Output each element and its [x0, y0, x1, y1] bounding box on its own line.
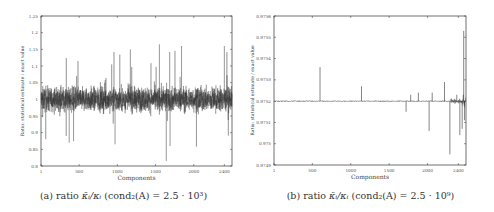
y-tick-label: 1.15	[29, 47, 39, 52]
y-tick-label: 0.9751	[256, 120, 271, 125]
y-tick-label: 0.9755	[256, 35, 271, 40]
caption-b-label: (b)	[287, 190, 301, 201]
chart-panel-b: 0.97490.9750.97510.97520.97530.97540.975…	[247, 0, 494, 212]
y-tick-label: 0.8	[31, 164, 38, 169]
chart-a-plot: 0.80.850.90.9511.051.11.151.21.251500100…	[0, 0, 247, 190]
x-axis-title: Components	[351, 173, 389, 181]
y-tick-label: 0.85	[29, 147, 39, 152]
x-tick-label: 500	[75, 169, 83, 174]
caption-b-math: κ̄ᵢ/κᵢ	[329, 190, 348, 201]
caption-a-text: ratio	[56, 190, 79, 201]
x-tick-label: 2400	[453, 168, 464, 173]
chart-b-plot: 0.97490.9750.97510.97520.97530.97540.975…	[247, 0, 494, 190]
x-tick-label: 1	[40, 169, 43, 174]
x-tick-label: 2000	[188, 169, 199, 174]
x-tick-label: 1	[273, 168, 276, 173]
x-tick-label: 500	[308, 168, 316, 173]
caption-a-cond: (cond₂(A) = 2.5 · 10³)	[104, 190, 207, 201]
x-tick-label: 2400	[219, 169, 230, 174]
plot-area	[41, 44, 232, 161]
y-axis-title: Ratio: statistical estimate / exact valu…	[20, 45, 25, 136]
y-tick-label: 0.9754	[256, 56, 271, 61]
y-tick-label: 1.25	[29, 14, 39, 19]
x-axis-title: Components	[117, 174, 155, 182]
caption-a-label: (a)	[40, 190, 53, 201]
caption-a: (a) ratio κ̄ᵢ/κᵢ (cond₂(A) = 2.5 · 10³)	[0, 190, 247, 201]
data-line	[41, 51, 232, 147]
caption-b: (b) ratio κ̄ᵢ/κᵢ (cond₂(A) = 2.5 · 10⁹)	[247, 190, 494, 201]
y-tick-label: 0.9749	[256, 163, 271, 168]
y-axis-title: Ratio: statistical estimate / exact valu…	[250, 45, 255, 136]
y-tick-label: 0.9756	[256, 14, 271, 19]
data-line	[274, 101, 466, 102]
plot-frame	[274, 16, 466, 165]
y-tick-label: 0.9	[31, 130, 38, 135]
caption-a-math: κ̄ᵢ/κᵢ	[82, 190, 101, 201]
y-tick-label: 1	[35, 97, 38, 102]
y-tick-label: 0.9753	[256, 77, 271, 82]
y-tick-label: 1.1	[31, 64, 38, 69]
y-tick-label: 0.95	[29, 114, 39, 119]
caption-b-cond: (cond₂(A) = 2.5 · 10⁹)	[352, 190, 455, 201]
y-tick-label: 1.2	[31, 30, 38, 35]
y-tick-label: 1.05	[29, 80, 39, 85]
plot-area	[274, 31, 466, 154]
chart-panel-a: 0.80.850.90.9511.051.11.151.21.251500100…	[0, 0, 247, 212]
y-tick-label: 0.975	[259, 141, 271, 146]
y-tick-label: 0.9752	[256, 99, 271, 104]
caption-b-text: ratio	[303, 190, 326, 201]
x-tick-label: 2000	[422, 168, 433, 173]
